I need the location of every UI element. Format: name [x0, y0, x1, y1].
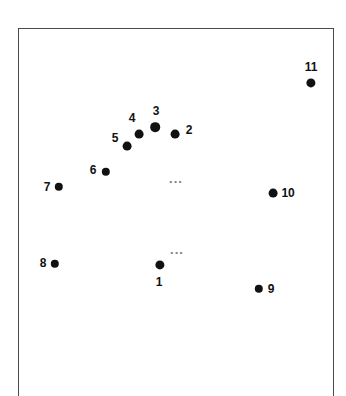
data-point-label-1: 1	[156, 276, 162, 288]
data-point-label-9: 9	[268, 283, 274, 295]
data-point-label-5: 5	[112, 132, 118, 144]
data-point-label-3: 3	[153, 105, 159, 117]
data-point-label-11: 11	[305, 61, 317, 73]
data-point-label-7: 7	[44, 181, 50, 193]
data-point-3	[150, 122, 160, 132]
data-point-label-8: 8	[40, 257, 46, 269]
plot-frame	[18, 28, 334, 396]
data-point-label-6: 6	[90, 164, 96, 176]
data-point-label-2: 2	[186, 124, 192, 136]
data-point-5	[123, 142, 132, 151]
data-point-label-4: 4	[129, 112, 135, 124]
data-point-10	[269, 189, 278, 198]
ellipsis-mark-1: ...	[169, 172, 183, 185]
data-point-2	[171, 130, 180, 139]
scatter-diagram-figure: 1234567891011 ......	[0, 0, 346, 396]
data-point-label-10: 10	[282, 187, 295, 199]
ellipsis-mark-2: ...	[170, 243, 184, 256]
data-point-4	[135, 130, 144, 139]
